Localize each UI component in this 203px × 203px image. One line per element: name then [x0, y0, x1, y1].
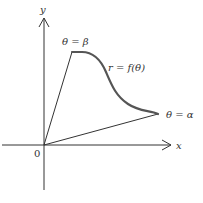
polar-region-diagram: y x 0 θ = β r = f(θ) θ = α	[0, 0, 203, 203]
y-axis-label: y	[39, 4, 46, 15]
ray-alpha-label: θ = α	[166, 109, 194, 120]
ray-alpha	[44, 114, 158, 145]
origin-label: 0	[34, 148, 40, 159]
curve-label: r = f(θ)	[108, 62, 145, 73]
ray-beta	[44, 52, 72, 145]
ray-beta-label: θ = β	[62, 36, 89, 47]
x-axis-label: x	[176, 140, 182, 151]
